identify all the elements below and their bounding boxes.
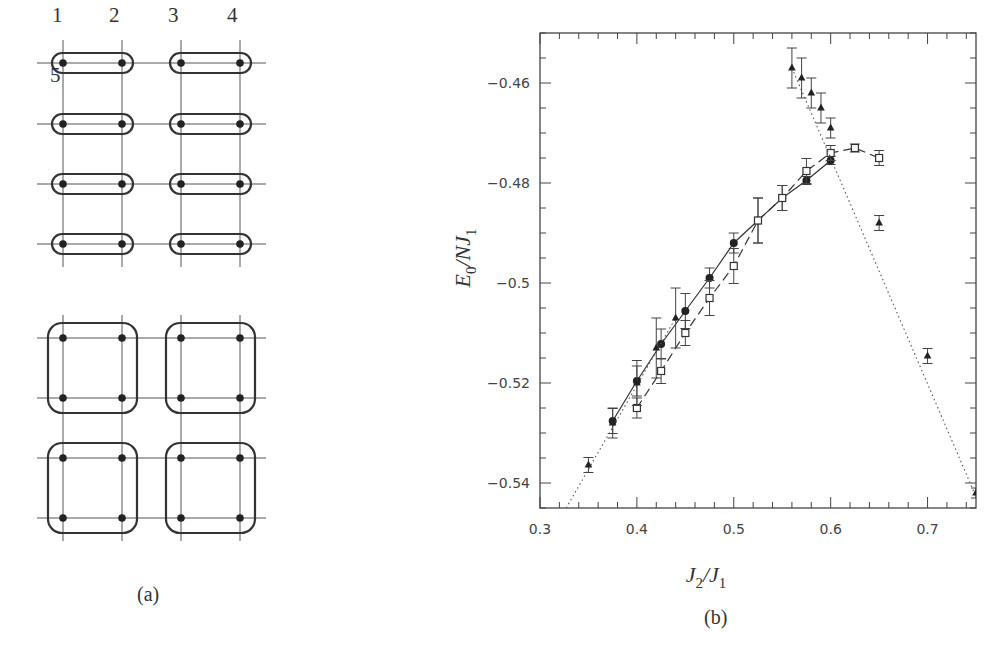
series-line	[637, 148, 879, 408]
data-point	[827, 124, 835, 131]
site-dot	[236, 454, 244, 462]
lattice-diagram	[0, 0, 300, 645]
site-dot	[177, 120, 185, 128]
y-tick-label: −0.46	[487, 75, 530, 91]
y-tick-label: −0.52	[487, 375, 530, 391]
panel-b-caption: (b)	[704, 606, 727, 629]
site-dot	[118, 59, 126, 67]
site-dot	[236, 394, 244, 402]
panel-b-chart: 0.30.40.50.60.7−0.46−0.48−0.5−0.52−0.54J…	[420, 0, 1002, 645]
data-point	[875, 219, 883, 226]
site-dot	[177, 394, 185, 402]
site-dot	[236, 334, 244, 342]
data-point	[876, 155, 883, 162]
site-dot	[177, 454, 185, 462]
site-dot	[59, 240, 67, 248]
data-point	[788, 64, 796, 71]
site-label: 3	[168, 5, 179, 26]
x-tick-label: 0.3	[529, 521, 551, 537]
fit-line	[792, 68, 981, 508]
data-point	[851, 145, 858, 152]
data-point	[730, 239, 738, 247]
site-label: 5	[50, 65, 61, 86]
site-dot	[118, 334, 126, 342]
panel-a: 12345	[0, 0, 300, 645]
data-point	[755, 217, 762, 224]
site-label: 2	[109, 5, 120, 26]
data-point	[798, 74, 806, 81]
data-point	[807, 89, 815, 96]
site-dot	[118, 454, 126, 462]
data-point	[924, 352, 932, 359]
site-dot	[177, 334, 185, 342]
data-point	[972, 489, 980, 496]
plot-frame	[540, 33, 976, 508]
y-tick-label: −0.48	[487, 175, 530, 191]
data-point	[672, 314, 680, 321]
data-point	[730, 263, 737, 270]
site-dot	[236, 180, 244, 188]
x-tick-label: 0.6	[820, 521, 842, 537]
y-tick-label: −0.5	[496, 275, 530, 291]
x-axis-title: J2/J1	[686, 562, 727, 591]
dimer-lattice	[37, 40, 266, 267]
site-dot	[177, 59, 185, 67]
site-dot	[59, 394, 67, 402]
plot-area	[566, 48, 981, 508]
series-line	[613, 161, 831, 422]
panel-a-caption: (a)	[137, 583, 159, 606]
site-dot	[118, 394, 126, 402]
site-dot	[59, 514, 67, 522]
site-dot	[177, 514, 185, 522]
site-dot	[118, 240, 126, 248]
site-dot	[236, 240, 244, 248]
site-dot	[59, 180, 67, 188]
site-label: 1	[52, 5, 63, 26]
x-tick-label: 0.7	[916, 521, 938, 537]
x-tick-label: 0.5	[723, 521, 745, 537]
y-axis-title: E0/NJ1	[450, 228, 479, 288]
data-point	[803, 168, 810, 175]
y-tick-label: −0.54	[487, 475, 530, 491]
data-point	[681, 307, 689, 315]
data-point	[827, 150, 834, 157]
energy-plot: 0.30.40.50.60.7−0.46−0.48−0.5−0.52−0.54J…	[420, 0, 1002, 645]
site-dot	[118, 514, 126, 522]
site-dot	[118, 120, 126, 128]
site-dot	[236, 120, 244, 128]
site-dot	[177, 240, 185, 248]
site-dot	[236, 59, 244, 67]
site-dot	[59, 454, 67, 462]
data-point	[817, 104, 825, 111]
site-dot	[59, 334, 67, 342]
data-point	[706, 295, 713, 302]
site-label: 4	[227, 5, 238, 26]
site-dot	[118, 180, 126, 188]
series-circle-filled	[608, 157, 836, 434]
data-point	[779, 195, 786, 202]
x-tick-label: 0.4	[626, 521, 648, 537]
data-point	[658, 368, 665, 375]
site-dot	[236, 514, 244, 522]
series-triangle-filled	[566, 48, 981, 508]
plaquette-lattice	[37, 315, 266, 541]
site-dot	[177, 180, 185, 188]
series-square-open	[632, 144, 884, 418]
data-point	[682, 330, 689, 337]
site-dot	[59, 120, 67, 128]
